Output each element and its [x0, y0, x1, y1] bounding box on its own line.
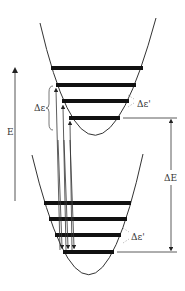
- energy-axis: E: [7, 70, 15, 201]
- delta-epsilon-brace: Δε: [34, 86, 53, 130]
- delta-e-indicator: ΔE: [117, 118, 177, 252]
- upper-level-band: [51, 66, 143, 70]
- upper-delta-epsilon-prime-label: Δε': [137, 99, 151, 109]
- lower-delta-epsilon-prime: Δε': [123, 228, 145, 243]
- delta-e-label: ΔE: [164, 173, 177, 183]
- upper-level-band: [69, 116, 120, 120]
- absorption-arrows: [56, 90, 72, 250]
- delta-epsilon-label: Δε: [34, 103, 45, 113]
- upper-level-band: [56, 83, 136, 87]
- lower-level-band: [55, 233, 121, 237]
- lower-delta-epsilon-prime-label: Δε': [131, 232, 145, 242]
- energy-axis-label: E: [7, 127, 14, 137]
- lower-level-band: [63, 250, 114, 254]
- lower-level-band: [44, 201, 131, 205]
- lower-potential-well: [32, 154, 143, 275]
- upper-delta-epsilon-prime: Δε': [128, 95, 151, 109]
- upper-level-band: [62, 99, 129, 103]
- energy-level-diagram: E Δε Δε': [0, 0, 185, 291]
